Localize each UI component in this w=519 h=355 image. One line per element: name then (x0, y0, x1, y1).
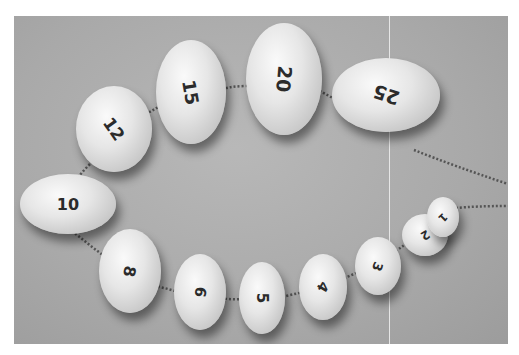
bead-number: 4 (314, 279, 333, 295)
bead-number: 15 (178, 78, 203, 106)
bead-5: 5 (239, 262, 285, 334)
bead-number: 3 (369, 259, 386, 273)
bead-25: 25 (332, 58, 440, 132)
bead-number: 5 (253, 293, 271, 303)
necklace-photo: 25201512108654321 (14, 16, 508, 344)
bead-20: 20 (246, 23, 322, 135)
bead-number: 10 (57, 195, 79, 214)
bead-6: 6 (174, 254, 226, 330)
bead-8: 8 (99, 229, 161, 313)
bead-number: 20 (272, 65, 296, 93)
bead-10: 10 (20, 174, 116, 234)
bead-number: 8 (120, 264, 141, 278)
bead-number: 6 (190, 285, 210, 298)
bead-12: 12 (76, 86, 152, 172)
bead-number: 25 (370, 80, 402, 109)
bead-15: 15 (156, 40, 226, 144)
bead-1: 1 (427, 197, 459, 237)
bead-number: 12 (99, 114, 129, 145)
bead-3: 3 (355, 237, 401, 295)
bead-4: 4 (299, 254, 347, 320)
bead-number: 1 (436, 210, 451, 225)
